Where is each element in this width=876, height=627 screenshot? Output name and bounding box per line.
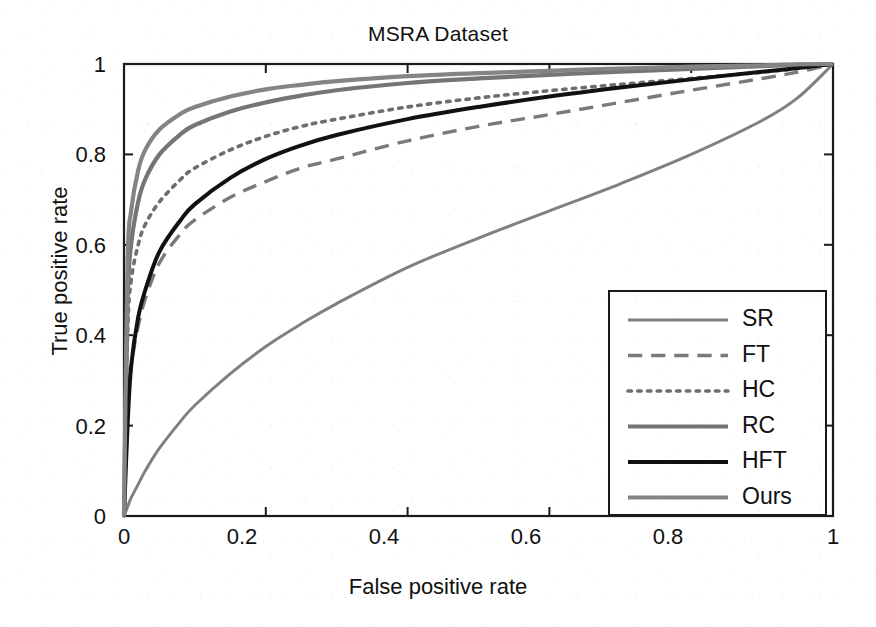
legend-label-hc: HC [742, 376, 775, 403]
legend-label-hft: HFT [742, 447, 787, 474]
legend-label-sr: SR [742, 305, 774, 332]
legend-label-ours: Ours [742, 483, 792, 510]
legend-label-rc: RC [742, 412, 775, 439]
roc-chart-figure: MSRA Dataset False positive rate True po… [0, 0, 876, 627]
legend-label-ft: FT [742, 341, 770, 368]
legend-box [609, 291, 826, 515]
